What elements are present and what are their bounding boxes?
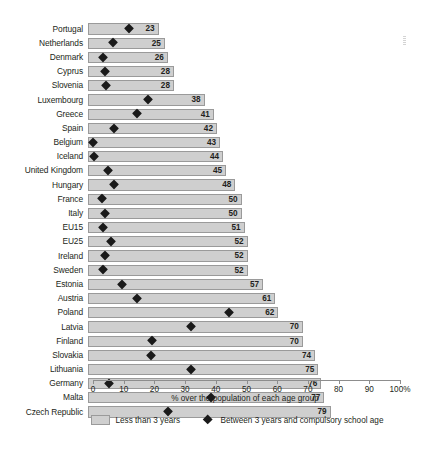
bar-value-label: 61 [262, 293, 275, 304]
x-axis-tick [154, 380, 155, 384]
bar-track: 28 [88, 79, 425, 93]
x-axis-tick [277, 380, 278, 384]
country-label: Greece [0, 110, 88, 119]
bar-track: 25 [88, 36, 425, 50]
bar-track: 61 [88, 292, 425, 306]
country-label: EU25 [0, 237, 88, 246]
x-axis-tick [339, 380, 340, 384]
bar-track: 52 [88, 235, 425, 249]
bar-value-label: 23 [146, 23, 159, 34]
x-axis-tick [93, 380, 94, 384]
legend-item-between-3-and-school-age: Between 3 years and compulsory school ag… [202, 416, 383, 425]
bar-value-label: 75 [305, 364, 318, 375]
x-axis-tick-label: 40 [211, 385, 220, 394]
chart-row: United Kingdom45 [0, 164, 430, 178]
legend-item-less-than-3-years: Less than 3 years [91, 415, 181, 425]
bar-value-label: 42 [204, 123, 217, 134]
country-label: Slovakia [0, 351, 88, 360]
legend-label-less-than-3-years: Less than 3 years [116, 416, 181, 425]
bar-track: 62 [88, 306, 425, 320]
bar-value-label: 74 [302, 350, 315, 361]
bar-less-than-3-years [88, 293, 275, 304]
x-axis: 0102030405060708090100% [93, 380, 400, 381]
chart-row: Greece41 [0, 107, 430, 121]
bar-track: 51 [88, 221, 425, 235]
country-label: Latvia [0, 323, 88, 332]
country-label: Iceland [0, 152, 88, 161]
x-axis-tick [400, 380, 401, 384]
chart-row: Portugal23 [0, 22, 430, 36]
x-axis-tick-label: 30 [181, 385, 190, 394]
country-label: Cyprus [0, 67, 88, 76]
childcare-coverage-chart: Portugal23Netherlands25Denmark26Cyprus28… [0, 0, 430, 455]
bar-value-label: 45 [213, 165, 226, 176]
country-label: Germany [0, 379, 88, 388]
bar-value-label: 41 [201, 109, 214, 120]
bar-value-label: 26 [155, 52, 168, 63]
bar-less-than-3-years [88, 109, 214, 120]
bar-value-label: 50 [228, 194, 241, 205]
country-label: Sweden [0, 266, 88, 275]
x-axis-tick [308, 380, 309, 384]
x-axis-tick [185, 380, 186, 384]
country-label: Belgium [0, 138, 88, 147]
chart-legend: Less than 3 years Between 3 years and co… [0, 415, 430, 425]
chart-row: Ireland52 [0, 249, 430, 263]
bar-value-label: 52 [235, 236, 248, 247]
chart-row: Slovenia28 [0, 79, 430, 93]
bar-value-label: 28 [161, 66, 174, 77]
bar-track: 50 [88, 206, 425, 220]
chart-row: Belgium43 [0, 136, 430, 150]
bar-less-than-3-years [88, 307, 278, 318]
x-axis-tick-label: 90 [365, 385, 374, 394]
bar-less-than-3-years [88, 194, 242, 205]
x-axis-tick-label: 100% [390, 385, 411, 394]
x-axis-tick-label: 10 [119, 385, 128, 394]
chart-row: Slovakia74 [0, 348, 430, 362]
bar-track: 70 [88, 320, 425, 334]
scan-artifact [403, 36, 406, 45]
bar-track: 48 [88, 178, 425, 192]
country-label: Ireland [0, 252, 88, 261]
bar-track: 52 [88, 249, 425, 263]
country-label: Denmark [0, 53, 88, 62]
x-axis-tick [124, 380, 125, 384]
chart-row: Luxembourg38 [0, 93, 430, 107]
bar-track: 23 [88, 22, 425, 36]
x-axis-tick [369, 380, 370, 384]
legend-label-between-3-and-school-age: Between 3 years and compulsory school ag… [221, 416, 384, 425]
country-label: Hungary [0, 181, 88, 190]
x-axis-tick-label: 20 [150, 385, 159, 394]
bar-track: 75 [88, 363, 425, 377]
bar-value-label: 70 [290, 321, 303, 332]
bar-value-label: 28 [161, 80, 174, 91]
bar-less-than-3-years [88, 250, 248, 261]
diamond-marker-icon [203, 415, 213, 425]
chart-rows: Portugal23Netherlands25Denmark26Cyprus28… [0, 22, 430, 419]
bar-value-label: 43 [207, 137, 220, 148]
bar-track: 50 [88, 192, 425, 206]
bar-track: 38 [88, 93, 425, 107]
bar-less-than-3-years [88, 350, 315, 361]
bar-less-than-3-years [88, 123, 217, 134]
bar-track: 28 [88, 65, 425, 79]
bar-value-label: 48 [222, 179, 235, 190]
x-axis-tick-label: 50 [242, 385, 251, 394]
chart-row: Finland70 [0, 334, 430, 348]
bar-less-than-3-years [88, 265, 248, 276]
bar-less-than-3-years [88, 151, 223, 162]
country-label: Italy [0, 209, 88, 218]
chart-row: Iceland44 [0, 150, 430, 164]
bar-track: 70 [88, 334, 425, 348]
country-label: Luxembourg [0, 96, 88, 105]
bar-value-label: 25 [152, 38, 165, 49]
bar-less-than-3-years [88, 279, 263, 290]
bar-less-than-3-years [88, 364, 318, 375]
x-axis-tick-label: 80 [334, 385, 343, 394]
bar-less-than-3-years [88, 222, 245, 233]
chart-row: Latvia70 [0, 320, 430, 334]
x-axis-tick-label: 60 [273, 385, 282, 394]
bar-value-label: 38 [192, 94, 205, 105]
chart-row: EU2552 [0, 235, 430, 249]
country-label: EU15 [0, 223, 88, 232]
